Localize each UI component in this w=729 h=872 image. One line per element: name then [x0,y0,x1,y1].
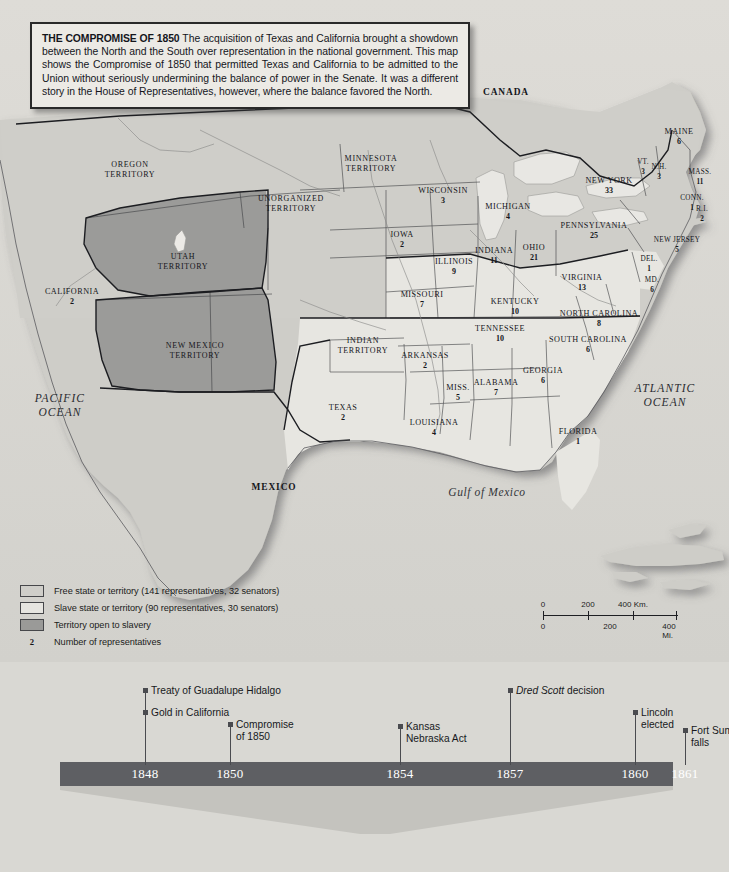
map-legend: Free state or territory (141 representat… [20,583,279,651]
map-scalebar: 0 200 400 Km. 0 200 400 Mi. [543,600,678,633]
timeline-year-1860: 1860 [621,766,648,782]
scalebar-km-labels: 0 200 400 Km. [543,600,678,611]
scalebar-km-200: 200 [581,600,594,609]
timeline-event-label: KansasNebraska Act [406,721,467,746]
timeline-event-marker [633,710,638,715]
timeline-year-1857: 1857 [496,766,523,782]
timeline-year-1854: 1854 [386,766,413,782]
legend-row-reps-note: 2 Number of representatives [20,634,279,650]
timeline-wedge [60,786,673,834]
timeline-event-marker [143,688,148,693]
scalebar-mi-200: 200 [603,622,616,631]
timeline-year-1850: 1850 [216,766,243,782]
timeline-event-label: Gold in California [151,707,229,719]
timeline-event-label: Treaty of Guadalupe Hidalgo [151,685,281,697]
timeline-event-marker [228,722,233,727]
legend-swatch-free-state [20,585,44,597]
legend-label-slave-state: Slave state or territory (90 representat… [54,603,278,613]
timeline-event-stem [230,725,231,765]
timeline-year-1848: 1848 [131,766,158,782]
timeline-event-stem [400,727,401,765]
timeline-year-1861: 1861 [671,766,698,782]
timeline-bar: 184818501854185718601861 [60,762,673,786]
timeline-event-stem [145,713,146,765]
caption-text: THE COMPROMISE OF 1850 The acquisition o… [42,32,458,98]
legend-swatch-slave-state [20,602,44,614]
scalebar-km-0: 0 [541,600,545,609]
map-canvas: THE COMPROMISE OF 1850 The acquisition o… [0,0,729,662]
timeline-event-label: Dred Scott decision [516,685,604,697]
scalebar-mi-labels: 0 200 400 Mi. [543,622,678,633]
scalebar-mi-0: 0 [541,622,545,631]
legend-symbol-representatives: 2 [20,637,44,647]
scalebar-axis [543,611,678,620]
timeline-event-stem [510,691,511,765]
timeline-event-marker [398,724,403,729]
timeline-event-marker [683,728,688,733]
timeline-section: Treaty of Guadalupe HidalgoGold in Calif… [0,662,729,872]
timeline-event-marker [143,710,148,715]
legend-row-slave: Slave state or territory (90 representat… [20,600,279,616]
legend-swatch-open-territory [20,619,44,631]
timeline-event-label: Compromiseof 1850 [236,719,294,744]
timeline-event-stem [685,731,686,765]
caption-title: THE COMPROMISE OF 1850 [42,33,180,44]
legend-row-open: Territory open to slavery [20,617,279,633]
legend-label-open-territory: Territory open to slavery [54,620,151,630]
scalebar-mi-400: 400 Mi. [662,622,675,640]
timeline-event-marker [508,688,513,693]
timeline-event-label: Lincolnelected [641,707,674,732]
timeline-event-stem [635,713,636,765]
legend-label-representatives: Number of representatives [54,637,161,647]
legend-row-free: Free state or territory (141 representat… [20,583,279,599]
caption-box: THE COMPROMISE OF 1850 The acquisition o… [30,22,470,109]
timeline-event-label: Fort Sumterfalls [691,725,729,750]
legend-label-free-state: Free state or territory (141 representat… [54,586,279,596]
scalebar-km-400: 400 Km. [618,600,648,609]
